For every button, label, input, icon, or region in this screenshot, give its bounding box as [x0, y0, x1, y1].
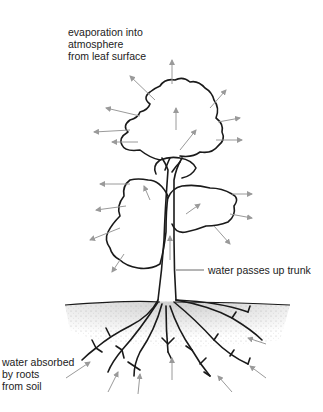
- transpiration-diagram: [0, 0, 323, 412]
- trunk-label: water passes up trunk: [208, 264, 311, 276]
- evaporation-arrows: [90, 60, 252, 272]
- roots-label: water absorbed by roots from soil: [2, 356, 74, 392]
- evaporation-label: evaporation into atmosphere from leaf su…: [68, 26, 146, 62]
